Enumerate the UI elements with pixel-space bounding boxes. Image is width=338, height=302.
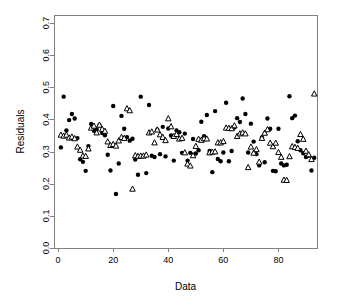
data-point-triangle (256, 159, 262, 164)
scatter-plot-figure: 0.00.10.20.30.40.50.60.7 020406080 DataR… (0, 0, 338, 302)
data-point-circle (158, 152, 162, 156)
y-tick-label: 0.6 (41, 49, 51, 62)
data-point-triangle (259, 135, 265, 140)
data-point-circle (72, 116, 76, 120)
data-point-triangle (97, 122, 103, 127)
data-point-circle (139, 94, 143, 98)
data-point-circle (106, 153, 110, 157)
y-axis-title: Residuals (15, 110, 26, 154)
data-point-circle (67, 118, 71, 122)
data-point-circle (218, 159, 222, 163)
data-point-circle (199, 119, 203, 123)
data-point-triangle (182, 150, 188, 155)
data-point-circle (238, 120, 242, 124)
data-point-circle (227, 159, 231, 163)
data-point-circle (235, 116, 239, 120)
data-point-circle (111, 104, 115, 108)
data-point-circle (251, 139, 255, 143)
y-tick-label: 0.3 (41, 145, 51, 158)
data-point-circle (309, 168, 313, 172)
data-point-circle (276, 127, 280, 131)
data-point-circle (144, 171, 148, 175)
data-point-circle (122, 127, 126, 131)
data-point-circle (70, 112, 74, 116)
x-tick-label: 60 (218, 255, 228, 265)
data-point-triangle (166, 116, 172, 121)
data-point-triangle (273, 140, 279, 145)
data-point-circle (243, 112, 247, 116)
data-point-circle (273, 169, 277, 173)
data-point-triangle (245, 164, 251, 169)
data-point-circle (213, 109, 217, 113)
data-point-triangle (311, 91, 317, 96)
data-point-circle (265, 116, 269, 120)
data-point-circle (221, 150, 225, 154)
data-point-circle (119, 114, 123, 118)
data-point-circle (249, 121, 253, 125)
x-tick-label: 0 (56, 255, 61, 265)
data-point-circle (287, 94, 291, 98)
data-point-triangle (298, 131, 304, 136)
data-point-triangle (144, 152, 150, 157)
data-point-triangle (152, 140, 158, 145)
data-point-circle (296, 139, 300, 143)
y-tick-label: 0.5 (41, 81, 51, 94)
data-point-circle (161, 125, 165, 129)
y-tick-label: 0.7 (41, 17, 51, 30)
data-point-circle (59, 145, 63, 149)
y-tick-label: 0.1 (41, 210, 51, 223)
data-point-circle (130, 137, 134, 141)
data-point-circle (293, 113, 297, 117)
data-point-triangle (212, 149, 218, 154)
data-point-triangle (155, 127, 161, 132)
data-point-circle (205, 113, 209, 117)
data-point-triangle (232, 123, 238, 128)
x-tick-label: 20 (108, 255, 118, 265)
data-point-circle (262, 160, 266, 164)
data-point-triangle (248, 144, 254, 149)
x-axis-title: Data (175, 281, 197, 292)
data-point-circle (163, 154, 167, 158)
data-point-triangle (221, 138, 227, 143)
data-point-circle (136, 173, 140, 177)
y-tick-label: 0.2 (41, 177, 51, 190)
data-point-triangle (287, 154, 293, 159)
x-tick-label: 40 (163, 255, 173, 265)
data-point-triangle (149, 129, 155, 134)
data-point-triangle (168, 124, 174, 129)
data-point-circle (285, 163, 289, 167)
data-point-circle (210, 170, 214, 174)
y-tick-label: 0.0 (41, 242, 51, 255)
data-point-circle (229, 149, 233, 153)
data-point-circle (240, 96, 244, 100)
y-tick-label: 0.4 (41, 113, 51, 126)
data-point-triangle (130, 186, 136, 191)
data-points-layer (58, 91, 317, 196)
data-point-circle (147, 103, 151, 107)
data-point-circle (83, 169, 87, 173)
data-point-circle (117, 161, 121, 165)
data-point-circle (224, 101, 228, 105)
chart-canvas: 0.00.10.20.30.40.50.60.7 020406080 DataR… (0, 0, 338, 302)
data-point-circle (81, 160, 85, 164)
data-point-circle (61, 94, 65, 98)
data-point-circle (183, 131, 187, 135)
data-point-circle (108, 168, 112, 172)
x-axis: 020406080 (56, 248, 284, 265)
data-point-circle (172, 158, 176, 162)
data-point-triangle (254, 146, 260, 151)
data-point-triangle (276, 149, 282, 154)
data-point-circle (246, 150, 250, 154)
y-axis: 0.00.10.20.30.40.50.60.7 (41, 17, 54, 254)
data-point-triangle (193, 143, 199, 148)
x-tick-label: 80 (273, 255, 283, 265)
data-point-circle (191, 137, 195, 141)
data-point-triangle (179, 135, 185, 140)
data-point-circle (114, 192, 118, 196)
data-point-circle (152, 155, 156, 159)
